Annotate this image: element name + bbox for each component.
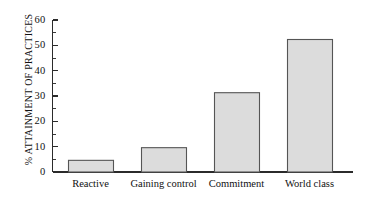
y-tick-label-0: 0 [26,166,46,177]
y-axis-major-ticks [53,20,58,172]
y-tick-label-10: 10 [26,141,46,152]
x-tick-label-world-class: World class [255,178,365,190]
y-tick-label-60: 60 [26,14,46,25]
y-tick-label-40: 40 [26,65,46,76]
bar-group [69,40,333,173]
chart-canvas [0,0,370,197]
bar-reactive [69,160,114,172]
y-tick-label-30: 30 [26,90,46,101]
bar-gaining-control [142,148,187,172]
bar-world-class [288,40,333,173]
y-tick-label-50: 50 [26,39,46,50]
bar-commitment [215,93,260,172]
bar-chart: % ATTAINMENT OF PRACTICES 0102030405060 … [0,0,370,197]
y-tick-label-20: 20 [26,115,46,126]
